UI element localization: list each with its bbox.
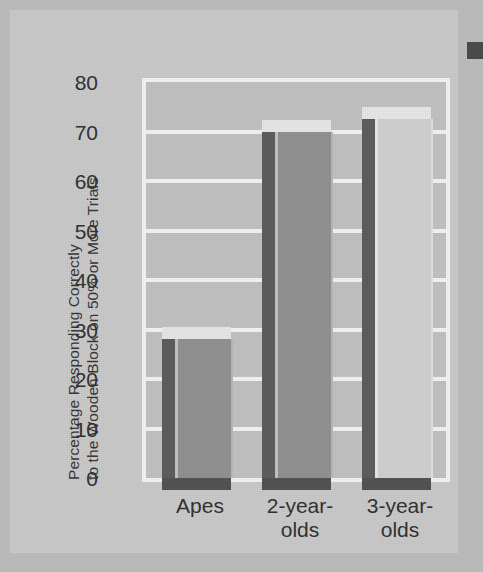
bar-apes[interactable] <box>175 339 231 478</box>
bar-base-shadow <box>262 478 331 490</box>
bar-base-shadow <box>162 478 231 490</box>
bar-top-face <box>362 107 431 119</box>
x-tick-label-line: olds <box>340 518 460 542</box>
chart-figure: Percentage Responding Correctly to the W… <box>0 0 483 572</box>
y-tick-label-60: 60 <box>38 171 98 192</box>
scan-edge-mark-icon <box>467 42 483 59</box>
bar-left-highlight <box>175 339 178 478</box>
bar-2-year-olds[interactable] <box>275 132 331 479</box>
bar-top-face <box>262 120 331 132</box>
x-tick-label-3-year-olds: 3-year-olds <box>340 494 460 541</box>
bar-front-face <box>375 119 433 478</box>
y-tick-label-40: 40 <box>38 270 98 291</box>
scan-sheet: Percentage Responding Correctly to the W… <box>10 10 458 553</box>
x-tick-label-line: 3-year- <box>340 494 460 518</box>
y-tick-label-50: 50 <box>38 220 98 241</box>
plot-area <box>146 82 446 478</box>
bar-left-highlight <box>275 132 278 479</box>
bar-base-shadow <box>362 478 431 490</box>
bar-top-face <box>162 327 231 339</box>
bar-side-face <box>262 132 275 479</box>
bar-left-highlight <box>375 119 378 478</box>
y-tick-label-70: 70 <box>38 121 98 142</box>
bar-front-face <box>275 132 333 479</box>
y-tick-label-80: 80 <box>38 72 98 93</box>
y-tick-label-20: 20 <box>38 369 98 390</box>
bar-side-face <box>162 339 175 478</box>
bar-series <box>146 82 446 478</box>
bar-front-face <box>175 339 233 478</box>
bar-3-year-olds[interactable] <box>375 119 431 478</box>
y-tick-label-30: 30 <box>38 319 98 340</box>
bar-side-face <box>362 119 375 478</box>
y-tick-label-0: 0 <box>38 468 98 489</box>
y-tick-label-10: 10 <box>38 418 98 439</box>
